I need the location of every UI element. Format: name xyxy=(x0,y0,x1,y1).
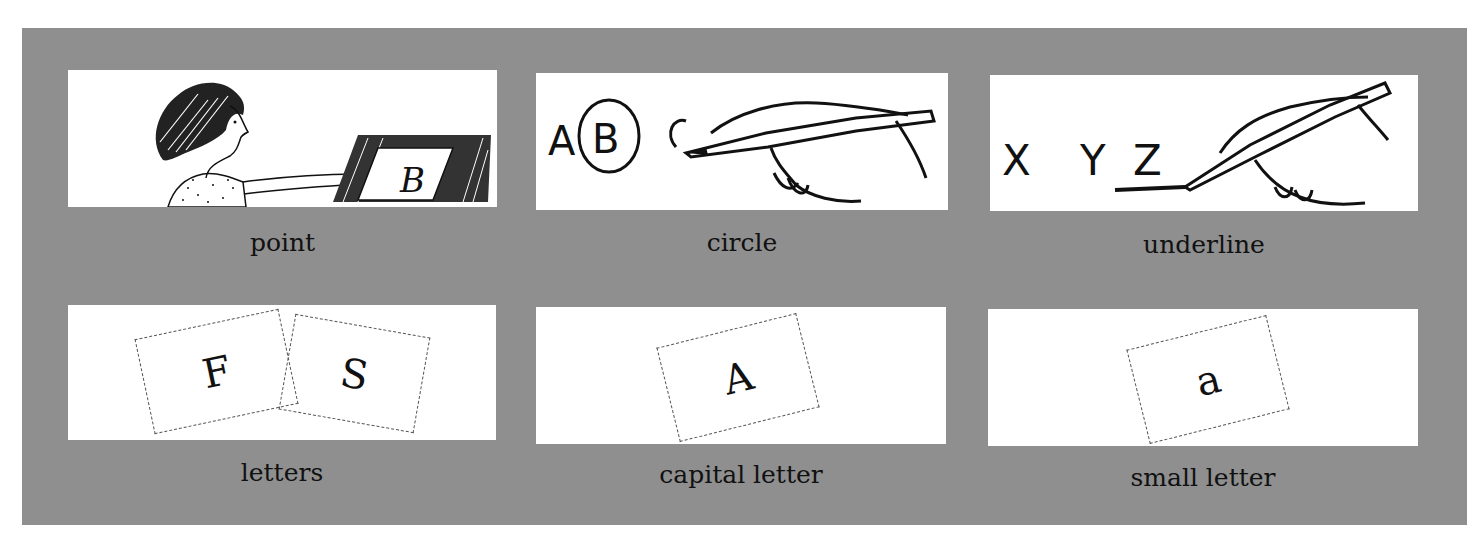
card-underline: X Y Z xyxy=(990,75,1418,211)
letter-capital-a: A xyxy=(718,352,757,404)
woman-pointing-icon: B xyxy=(68,70,497,207)
card-capital-letter: A xyxy=(536,307,946,444)
letter-f: F xyxy=(198,346,235,397)
card-circle: A B xyxy=(536,73,948,210)
svg-text:Y: Y xyxy=(1079,136,1106,185)
letter-s: S xyxy=(337,348,372,398)
svg-text:B: B xyxy=(399,160,425,200)
svg-text:B: B xyxy=(592,116,619,162)
svg-text:A: A xyxy=(548,118,576,164)
letter-card-f: F xyxy=(135,309,299,434)
svg-text:Z: Z xyxy=(1133,136,1162,185)
letter-card-s: S xyxy=(279,314,431,433)
small-letter-card: a xyxy=(1126,315,1289,444)
hand-underlining-icon: X Y Z xyxy=(990,75,1418,211)
card-letters: F S xyxy=(68,305,496,440)
label-small-letter: small letter xyxy=(988,463,1418,493)
card-small-letter: a xyxy=(988,309,1418,446)
label-letters: letters xyxy=(68,458,496,488)
label-underline: underline xyxy=(990,230,1418,260)
label-point: point xyxy=(68,228,497,258)
letter-small-a: a xyxy=(1191,354,1225,404)
label-circle: circle xyxy=(536,228,948,258)
svg-text:X: X xyxy=(1002,136,1031,185)
card-point: B xyxy=(68,70,497,207)
hand-circling-icon: A B xyxy=(536,73,948,210)
label-capital-letter: capital letter xyxy=(536,460,946,490)
capital-letter-card: A xyxy=(656,313,819,442)
